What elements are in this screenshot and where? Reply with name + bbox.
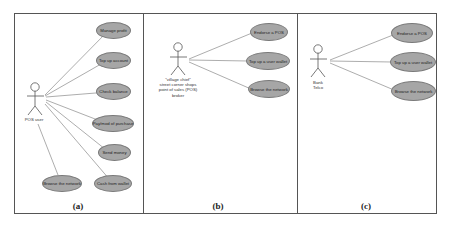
association-lines (0, 0, 450, 229)
panel-caption-b: (b) (213, 201, 224, 211)
usecase-top-up-user-wallet-b: Top up a user wallet (246, 52, 290, 70)
actor-label-pos-user: POS user (25, 117, 44, 122)
usecase-manage-profit: Manage profit (96, 22, 131, 39)
actor-label-village-chief: "village chief" street corner shops poin… (159, 77, 197, 98)
panel-caption-c: (c) (361, 201, 371, 211)
usecase-top-up-account: Top up account (96, 52, 131, 69)
usecase-payment-of-purchase: Pay/mod of purchase (92, 115, 134, 132)
actor-label-bank-telco: Bank Telco (313, 80, 323, 90)
panel-caption-a: (a) (73, 201, 84, 211)
usecase-cash-from-wallet: Cash from wallet (94, 175, 132, 192)
usecase-endorse-pos-b: Endorse a POS (250, 23, 288, 41)
usecase-endorse-pos-c: Endorse a POS (391, 23, 433, 43)
usecase-send-money: Send money (98, 144, 131, 161)
usecase-browse-network-b: Browse the network (248, 80, 290, 98)
usecase-browse-network-c: Browse the network (391, 81, 436, 101)
usecase-browse-network-a: Browse the network (42, 175, 82, 192)
usecase-top-up-user-wallet-c: Top up a user wallet (390, 52, 436, 72)
usecase-check-balance: Check balance (96, 83, 131, 100)
